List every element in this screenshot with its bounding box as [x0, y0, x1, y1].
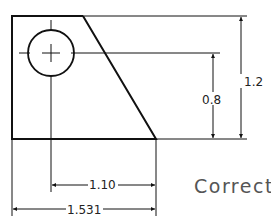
dimension-width-hole: 1.10 — [52, 178, 155, 192]
center-lines — [19, 20, 220, 192]
status-label: Correct — [194, 175, 271, 197]
dim-width-total-text: 1.531 — [67, 203, 101, 217]
dimension-height-total: 1.2 — [241, 17, 263, 138]
dim-height-hole-text: 0.8 — [202, 93, 221, 107]
dim-height-total-text: 1.2 — [244, 75, 263, 89]
dimension-width-total: 1.531 — [13, 203, 155, 217]
dim-width-hole-text: 1.10 — [89, 178, 116, 192]
dimension-height-hole: 0.8 — [202, 54, 221, 138]
part-outline — [12, 16, 156, 139]
